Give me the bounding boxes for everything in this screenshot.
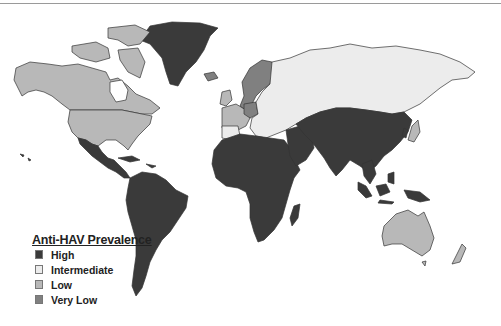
region-new-zealand[interactable] (452, 244, 466, 264)
region-africa[interactable] (212, 134, 300, 242)
legend-label: High (51, 249, 74, 261)
legend-label: Low (51, 279, 72, 291)
legend: Anti-HAV Prevalence High Intermediate Lo… (33, 233, 152, 307)
swatch-low (35, 280, 43, 289)
legend-label: Very Low (51, 294, 97, 306)
swatch-intermediate (35, 265, 43, 274)
region-australia[interactable] (382, 210, 434, 256)
legend-label: Intermediate (51, 264, 113, 276)
legend-item-low: Low (35, 277, 152, 292)
swatch-high (35, 250, 43, 259)
region-madagascar[interactable] (290, 204, 300, 226)
region-tasmania[interactable] (422, 261, 426, 266)
region-iceland[interactable] (204, 72, 218, 81)
region-uk[interactable] (220, 90, 232, 106)
swatch-very-low (35, 295, 43, 304)
legend-title: Anti-HAV Prevalence (32, 233, 152, 247)
legend-item-high: High (35, 247, 152, 262)
legend-item-intermediate: Intermediate (35, 262, 152, 277)
legend-item-very-low: Very Low (35, 292, 152, 307)
region-asia-south-east[interactable] (296, 108, 412, 176)
